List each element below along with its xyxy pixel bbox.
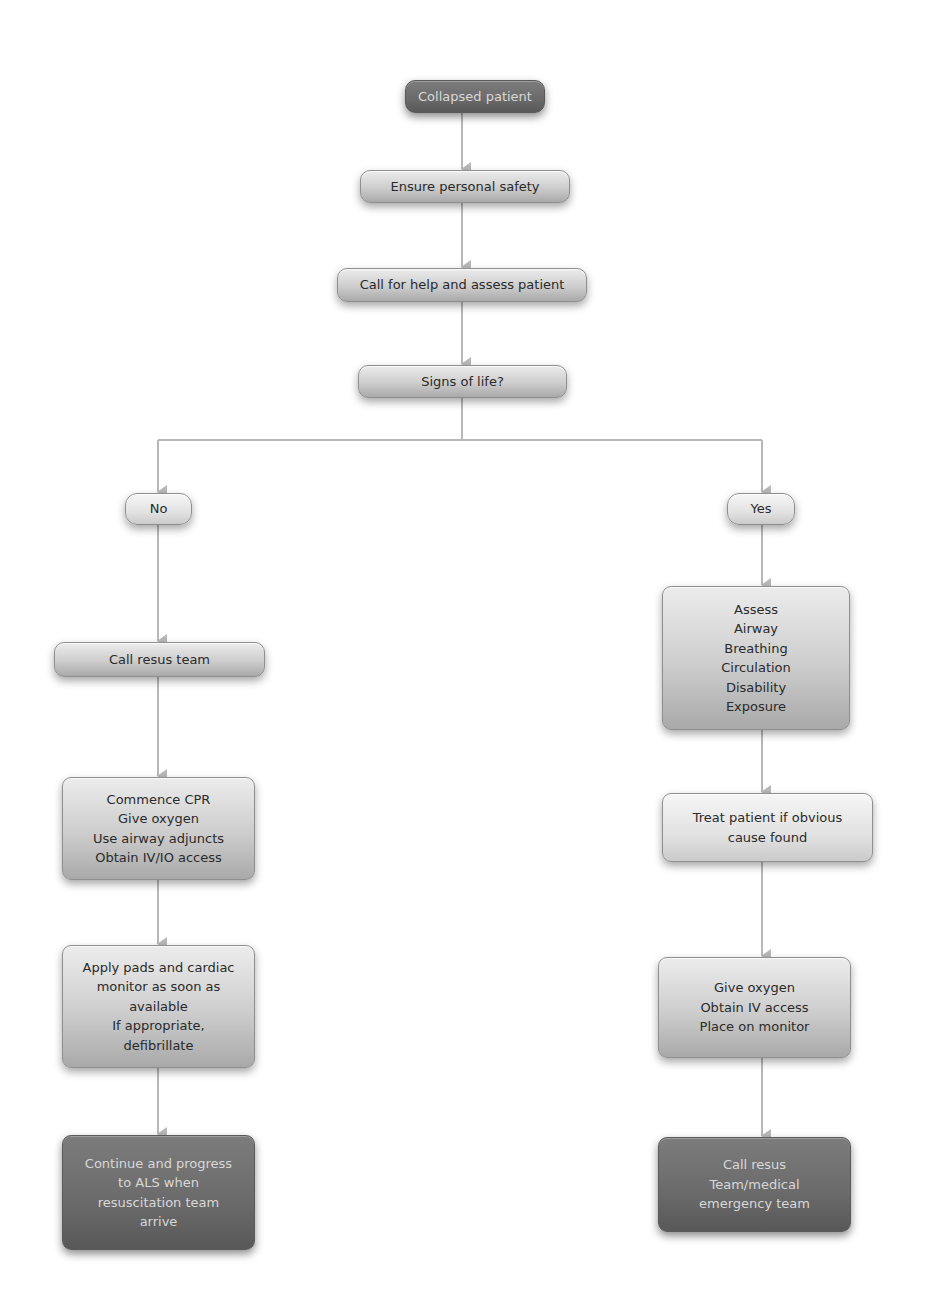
node-collapsed-patient: Collapsed patient xyxy=(405,80,545,113)
node-line: Assess xyxy=(734,600,778,620)
node-line: Apply pads and cardiac xyxy=(82,958,234,978)
node-line: Give oxygen xyxy=(118,809,199,829)
node-label: Signs of life? xyxy=(421,372,504,392)
node-line: emergency team xyxy=(699,1194,810,1214)
node-continue-to-als: Continue and progress to ALS when resusc… xyxy=(62,1135,255,1250)
node-line: Exposure xyxy=(726,697,786,717)
node-label: Call resus team xyxy=(109,650,210,670)
node-label: Ensure personal safety xyxy=(390,177,539,197)
branch-label: Yes xyxy=(751,499,772,519)
node-line: Call resus xyxy=(723,1155,786,1175)
node-line: Disability xyxy=(726,678,786,698)
node-line: resuscitation team xyxy=(98,1193,219,1213)
node-line: Obtain IV/IO access xyxy=(95,848,222,868)
node-line: Place on monitor xyxy=(700,1017,810,1037)
node-give-oxygen: Give oxygen Obtain IV access Place on mo… xyxy=(658,957,851,1058)
node-line: Treat patient if obvious xyxy=(693,808,842,828)
node-call-resus-medical-team: Call resus Team/medical emergency team xyxy=(658,1137,851,1232)
node-assess-abcde: Assess Airway Breathing Circulation Disa… xyxy=(662,586,850,730)
node-ensure-safety: Ensure personal safety xyxy=(360,170,570,203)
branch-no: No xyxy=(125,493,192,525)
node-line: Obtain IV access xyxy=(700,998,808,1018)
branch-label: No xyxy=(150,499,168,519)
node-line: to ALS when xyxy=(118,1173,199,1193)
node-line: Airway xyxy=(734,619,778,639)
node-line: Circulation xyxy=(721,658,791,678)
node-line: cause found xyxy=(728,828,808,848)
node-line: Commence CPR xyxy=(107,790,211,810)
node-signs-of-life: Signs of life? xyxy=(358,365,567,398)
node-label: Call for help and assess patient xyxy=(360,275,565,295)
node-line: Continue and progress xyxy=(85,1154,232,1174)
branch-yes: Yes xyxy=(727,493,795,525)
node-line: Give oxygen xyxy=(714,978,795,998)
node-line: available xyxy=(129,997,188,1017)
node-treat-patient: Treat patient if obvious cause found xyxy=(662,793,873,862)
node-label: Collapsed patient xyxy=(418,87,532,107)
node-line: Use airway adjuncts xyxy=(93,829,224,849)
node-line: Breathing xyxy=(724,639,787,659)
node-line: arrive xyxy=(140,1212,178,1232)
node-line: Team/medical xyxy=(710,1175,800,1195)
node-line: defibrillate xyxy=(124,1036,194,1056)
node-call-resus-team: Call resus team xyxy=(54,642,265,677)
node-line: monitor as soon as xyxy=(97,977,221,997)
resuscitation-flowchart: Collapsed patient Ensure personal safety… xyxy=(0,0,927,1312)
node-apply-pads: Apply pads and cardiac monitor as soon a… xyxy=(62,945,255,1068)
node-commence-cpr: Commence CPR Give oxygen Use airway adju… xyxy=(62,777,255,880)
node-line: If appropriate, xyxy=(112,1016,204,1036)
node-call-for-help: Call for help and assess patient xyxy=(337,268,587,302)
